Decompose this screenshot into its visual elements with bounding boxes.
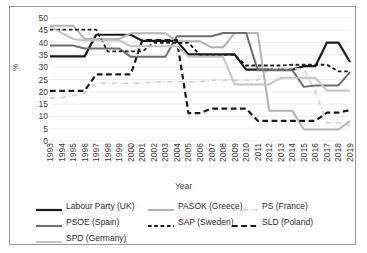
x-tick-label: 2010 xyxy=(242,143,251,162)
legend-label: PSOE (Spain) xyxy=(66,218,119,227)
x-tick-label: 2016 xyxy=(311,143,320,162)
legend-item-labour_uk[interactable]: Labour Party (UK) xyxy=(36,201,135,211)
legend-item-pasok_greece[interactable]: PASOK (Greece) xyxy=(148,201,243,211)
x-tick-label: 2019 xyxy=(346,143,355,162)
x-tick-label: 2007 xyxy=(208,143,217,162)
x-tick-label: 2002 xyxy=(150,143,159,162)
legend-swatch-spd_germany xyxy=(36,233,62,243)
y-tick-label: 45 xyxy=(24,26,48,35)
y-tick-label: 50 xyxy=(24,14,48,23)
legend-label: SPD (Germany) xyxy=(66,234,126,243)
x-axis-tick-labels: 1993199419951996199719981999200020012002… xyxy=(50,143,350,179)
x-tick-label: 1998 xyxy=(104,143,113,162)
x-tick-label: 1993 xyxy=(46,143,55,162)
x-tick-label: 2017 xyxy=(323,143,332,162)
legend-label: SAP (Sweden) xyxy=(178,218,234,227)
legend-item-sld_poland[interactable]: SLD (Poland) xyxy=(232,217,313,227)
x-tick-label: 2003 xyxy=(161,143,170,162)
legend-row: SPD (Germany) xyxy=(36,230,336,246)
x-tick-label: 2006 xyxy=(196,143,205,162)
legend-swatch-psoe_spain xyxy=(36,217,62,227)
y-tick-label: 30 xyxy=(24,63,48,72)
y-tick-label: 5 xyxy=(24,124,48,133)
x-tick-label: 2013 xyxy=(277,143,286,162)
legend-item-ps_france[interactable]: PS (France) xyxy=(232,201,308,211)
x-tick-label: 2000 xyxy=(127,143,136,162)
y-tick-label: 20 xyxy=(24,88,48,97)
legend-row: Labour Party (UK)PASOK (Greece)PS (Franc… xyxy=(36,198,336,214)
x-tick-label: 2014 xyxy=(288,143,297,162)
legend-swatch-ps_france xyxy=(232,201,258,211)
x-tick-label: 1994 xyxy=(58,143,67,162)
plot-lines xyxy=(50,18,350,141)
legend-swatch-labour_uk xyxy=(36,201,62,211)
x-tick-label: 2008 xyxy=(219,143,228,162)
x-tick-label: 2011 xyxy=(254,143,263,161)
x-tick-label: 1996 xyxy=(81,143,90,162)
x-tick-label: 2018 xyxy=(334,143,343,162)
chart-legend: Labour Party (UK)PASOK (Greece)PS (Franc… xyxy=(36,198,336,246)
legend-row: PSOE (Spain)SAP (Sweden)SLD (Poland) xyxy=(36,214,336,230)
series-line-sld_poland xyxy=(50,40,350,121)
y-tick-label: 10 xyxy=(24,112,48,121)
legend-item-psoe_spain[interactable]: PSOE (Spain) xyxy=(36,217,119,227)
x-tick-label: 2005 xyxy=(184,143,193,162)
y-tick-label: 40 xyxy=(24,38,48,47)
y-axis-title: % xyxy=(11,64,20,71)
x-tick-label: 2015 xyxy=(300,143,309,162)
y-tick-label: 25 xyxy=(24,75,48,84)
legend-item-spd_germany[interactable]: SPD (Germany) xyxy=(36,233,126,243)
x-axis-title: Year xyxy=(10,181,357,191)
legend-label: SLD (Poland) xyxy=(262,218,313,227)
plot-area xyxy=(50,18,350,141)
x-tick-label: 1999 xyxy=(115,143,124,162)
legend-label: PS (France) xyxy=(262,202,308,211)
legend-swatch-sap_sweden xyxy=(148,217,174,227)
x-tick-label: 2009 xyxy=(231,143,240,162)
x-tick-label: 2004 xyxy=(173,143,182,162)
chart-container: % 05101520253035404550 19931994199519961… xyxy=(9,6,356,245)
y-tick-label: 15 xyxy=(24,100,48,109)
legend-swatch-sld_poland xyxy=(232,217,258,227)
x-tick-label: 1997 xyxy=(92,143,101,162)
legend-item-sap_sweden[interactable]: SAP (Sweden) xyxy=(148,217,234,227)
y-axis-tick-labels: 05101520253035404550 xyxy=(24,18,48,141)
x-tick-label: 2012 xyxy=(265,143,274,162)
legend-swatch-pasok_greece xyxy=(148,201,174,211)
y-tick-label: 35 xyxy=(24,51,48,60)
legend-label: Labour Party (UK) xyxy=(66,202,135,211)
x-tick-label: 2001 xyxy=(138,143,147,162)
x-tick-label: 1995 xyxy=(69,143,78,162)
